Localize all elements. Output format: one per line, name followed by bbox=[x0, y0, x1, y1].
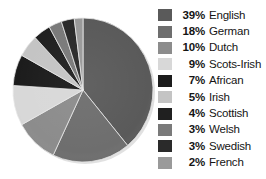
legend-percent-scots-irish: 9% bbox=[178, 58, 205, 71]
legend-item-english[interactable]: 39% English bbox=[158, 7, 264, 23]
legend-label-welsh: Welsh bbox=[209, 123, 240, 136]
legend-swatch-welsh bbox=[158, 124, 172, 136]
legend-label-african: African bbox=[209, 74, 243, 87]
legend-label-english: English bbox=[209, 9, 245, 22]
legend-percent-welsh: 3% bbox=[178, 123, 205, 136]
legend-swatch-swedish bbox=[158, 140, 172, 152]
legend-swatch-french bbox=[158, 157, 172, 169]
legend-item-scots-irish[interactable]: 9% Scots-Irish bbox=[158, 56, 264, 72]
legend-percent-african: 7% bbox=[178, 74, 205, 87]
legend-item-african[interactable]: 7% African bbox=[158, 73, 264, 89]
legend-label-french: French bbox=[209, 156, 244, 169]
legend-percent-scottish: 4% bbox=[178, 107, 205, 120]
legend-item-german[interactable]: 18% German bbox=[158, 23, 264, 39]
pie-chart-figure: 39% English 18% German 10% Dutch 9% Scot… bbox=[0, 0, 266, 179]
legend-item-scottish[interactable]: 4% Scottish bbox=[158, 105, 264, 121]
legend-percent-swedish: 3% bbox=[178, 140, 205, 153]
legend-item-dutch[interactable]: 10% Dutch bbox=[158, 40, 264, 56]
legend-swatch-dutch bbox=[158, 42, 172, 54]
legend-swatch-english bbox=[158, 9, 172, 21]
legend-swatch-scottish bbox=[158, 108, 172, 120]
pie-shading-overlay bbox=[13, 18, 153, 162]
legend-swatch-scots-irish bbox=[158, 58, 172, 70]
legend-item-french[interactable]: 2% French bbox=[158, 155, 264, 171]
pie-chart-svg bbox=[11, 16, 157, 166]
legend-swatch-irish bbox=[158, 91, 172, 103]
chart-legend: 39% English 18% German 10% Dutch 9% Scot… bbox=[158, 7, 264, 171]
legend-swatch-german bbox=[158, 26, 172, 38]
legend-label-dutch: Dutch bbox=[209, 41, 238, 54]
legend-label-swedish: Swedish bbox=[209, 140, 251, 153]
pie-chart-plot-area bbox=[11, 16, 157, 166]
legend-label-scottish: Scottish bbox=[209, 107, 248, 120]
legend-label-irish: Irish bbox=[209, 91, 230, 104]
legend-percent-dutch: 10% bbox=[178, 41, 205, 54]
legend-percent-german: 18% bbox=[178, 25, 205, 38]
legend-item-irish[interactable]: 5% Irish bbox=[158, 89, 264, 105]
legend-swatch-african bbox=[158, 75, 172, 87]
legend-percent-irish: 5% bbox=[178, 91, 205, 104]
legend-percent-french: 2% bbox=[178, 156, 205, 169]
legend-label-german: German bbox=[209, 25, 249, 38]
legend-percent-english: 39% bbox=[178, 9, 205, 22]
legend-item-swedish[interactable]: 3% Swedish bbox=[158, 138, 264, 154]
legend-label-scots-irish: Scots-Irish bbox=[209, 58, 261, 71]
legend-item-welsh[interactable]: 3% Welsh bbox=[158, 122, 264, 138]
